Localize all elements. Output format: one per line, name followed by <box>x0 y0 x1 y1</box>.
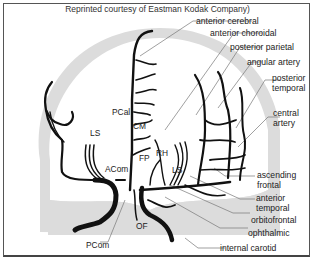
label-rh: RH <box>156 148 168 158</box>
label-pcom: PCom <box>86 240 109 250</box>
label-pcal: PCal <box>112 107 130 117</box>
label-cm: CM <box>133 121 146 131</box>
label-of: OF <box>136 221 148 231</box>
label-ls-right: LS <box>172 165 182 175</box>
label-ascending-frontal: ascendingfrontal <box>257 170 296 190</box>
label-orbitofrontal: orbitofrontal <box>251 215 296 225</box>
label-ls-left: LS <box>90 128 100 138</box>
label-internal-carotid: internal carotid <box>220 243 276 253</box>
label-acom: ACom <box>105 164 128 174</box>
label-ophthalmic: ophthalmic <box>248 228 290 238</box>
label-anterior-temporal: anteriortemporal <box>256 193 289 213</box>
label-anterior-choroidal: anterior choroidal <box>210 28 276 38</box>
label-posterior-parietal: posterior parietal <box>230 42 294 52</box>
label-anterior-cerebral: anterior cerebral <box>196 16 259 26</box>
label-central-artery: centralartery <box>273 108 299 128</box>
label-posterior-temporal: posteriortemporal <box>272 73 305 93</box>
label-angular-artery: angular artery <box>247 57 300 67</box>
label-fp: FP <box>139 153 150 163</box>
